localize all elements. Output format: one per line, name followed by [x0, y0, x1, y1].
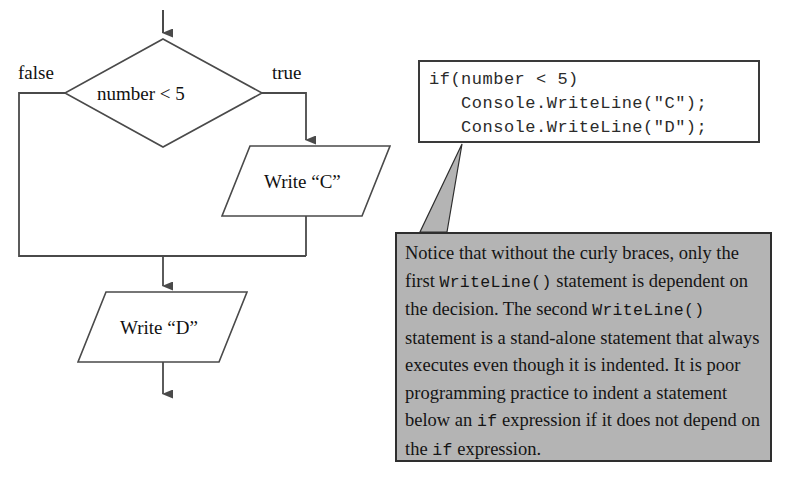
branch-label-false: false [18, 63, 54, 82]
decision-label: number < 5 [97, 84, 185, 103]
callout-prose: expression. [453, 439, 541, 459]
inline-code: if [432, 441, 452, 460]
flowchart-figure: number < 5 false true Write “C” Write “D… [0, 0, 787, 485]
inline-code: WriteLine() [592, 301, 704, 320]
code-snippet-box: if(number < 5) Console.WriteLine("C"); C… [418, 60, 760, 143]
inline-code: if [477, 412, 497, 431]
annotation-callout-text: Notice that without the curly braces, on… [405, 240, 760, 464]
code-line: Console.WriteLine("D"); [429, 116, 758, 140]
inline-code: WriteLine() [439, 273, 551, 292]
process-write-d-label: Write “D” [120, 318, 198, 337]
code-line: Console.WriteLine("C"); [429, 92, 758, 116]
branch-label-true: true [272, 63, 302, 82]
annotation-callout: Notice that without the curly braces, on… [395, 232, 772, 462]
process-write-c-label: Write “C” [264, 172, 341, 191]
code-line: if(number < 5) [429, 68, 758, 92]
callout-leader-triangle [420, 144, 462, 232]
true-branch-path [262, 93, 306, 140]
